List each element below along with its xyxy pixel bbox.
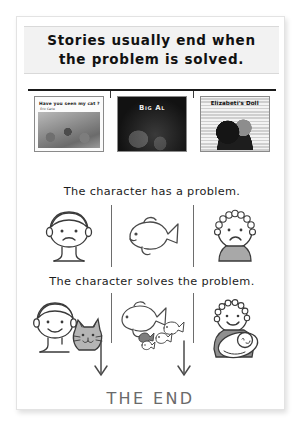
girl-with-doll-icon bbox=[200, 297, 270, 361]
illustration-row-solution bbox=[28, 293, 276, 365]
the-end-label: THE END bbox=[17, 389, 284, 408]
book-cell-2: Big Al bbox=[111, 93, 194, 155]
sentence-solution: The character solves the problem. bbox=[28, 275, 276, 288]
book-cover-have-you-seen-my-cat: Have you seen my cat ? Eric Carle bbox=[34, 96, 104, 152]
book-2-title: Big Al bbox=[118, 106, 186, 111]
divider-row2-left bbox=[111, 293, 112, 343]
sentence-problem: The character has a problem. bbox=[28, 185, 276, 198]
sad-girl-icon bbox=[204, 206, 266, 266]
title-line-2: the problem is solved. bbox=[59, 50, 244, 69]
fish-icon bbox=[120, 213, 184, 259]
panel-sad-girl bbox=[193, 203, 276, 269]
illustration-row-problem bbox=[28, 203, 276, 269]
book-covers-row: Have you seen my cat ? Eric Carle Big Al… bbox=[28, 93, 276, 155]
divider-row1-right bbox=[193, 205, 194, 267]
sad-boy-icon bbox=[38, 206, 100, 266]
title-underline-rule bbox=[28, 89, 276, 91]
book-3-cover-art bbox=[209, 113, 261, 150]
book-3-title: Elizabeti's Doll bbox=[201, 101, 269, 106]
book-1-title: Have you seen my cat ? bbox=[35, 101, 103, 106]
book-1-cover-art bbox=[38, 112, 100, 148]
book-cover-big-al: Big Al bbox=[117, 96, 187, 152]
book-1-author: Eric Carle bbox=[35, 107, 103, 111]
book-cover-elizabetis-doll: Elizabeti's Doll bbox=[200, 96, 270, 152]
divider-row2-right bbox=[193, 293, 194, 343]
divider-row1-left bbox=[111, 205, 112, 267]
book-cell-1: Have you seen my cat ? Eric Carle bbox=[28, 93, 111, 155]
panel-lonely-fish bbox=[111, 203, 194, 269]
arrow-down-left bbox=[93, 341, 107, 381]
panel-sad-boy bbox=[28, 203, 111, 269]
slide-title-band: Stories usually end when the problem is … bbox=[24, 26, 279, 74]
panel-girl-with-doll bbox=[193, 293, 276, 365]
slide-card: Stories usually end when the problem is … bbox=[16, 16, 285, 410]
arrow-down-right bbox=[176, 341, 190, 381]
title-line-1: Stories usually end when bbox=[47, 31, 256, 50]
book-cell-3: Elizabeti's Doll bbox=[193, 93, 276, 155]
